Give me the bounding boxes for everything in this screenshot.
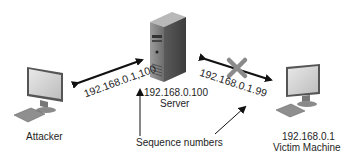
- sequence-numbers-label: Sequence numbers: [136, 137, 223, 148]
- server-label: Server: [160, 98, 189, 109]
- victim-ip-label: 192.168.0.1: [282, 131, 335, 142]
- attacker-label: Attacker: [26, 131, 63, 142]
- sequence-pointer-victim: [215, 107, 245, 134]
- attacker-computer-icon: [14, 67, 63, 122]
- victim-computer-icon: [276, 64, 320, 117]
- server-ip-label: 192.168.0.100: [144, 87, 208, 98]
- diagram-canvas: 192.168.0.1,100 192.168.0.1.99 192.168.0…: [0, 0, 346, 163]
- victim-label: Victim Machine: [273, 142, 341, 153]
